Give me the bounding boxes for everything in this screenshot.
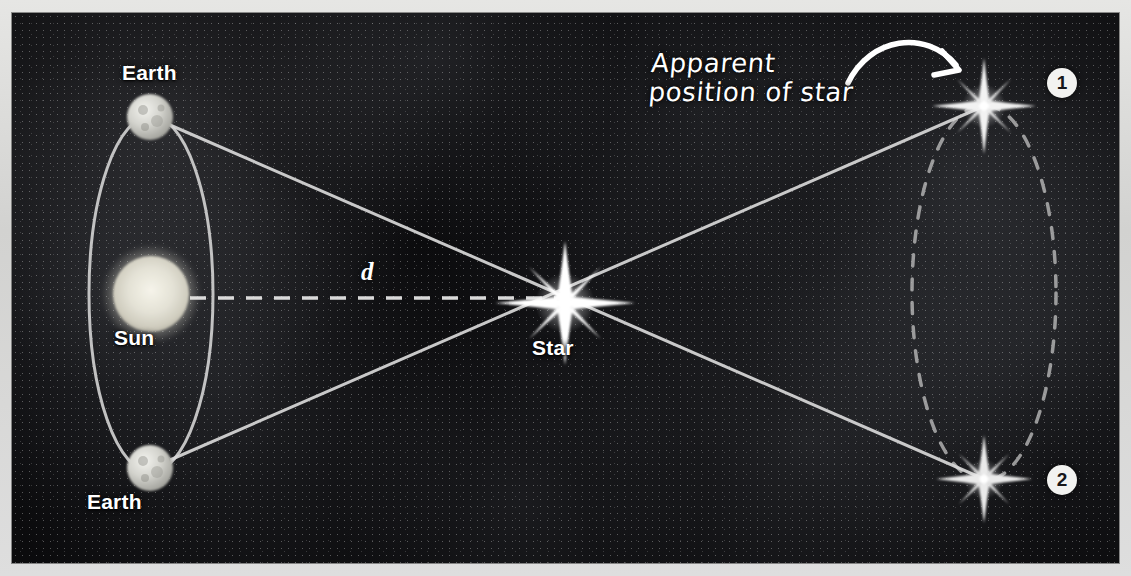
figure-page: Earth Earth Sun Star d Apparent position… [0,0,1131,576]
parallax-figure: Earth Earth Sun Star d Apparent position… [12,13,1119,563]
annotation-line-1: Apparent [650,49,903,78]
badge-position-1: 1 [1047,68,1077,98]
diagram-vectors [12,13,1119,563]
annotation-apparent-position: Apparent position of star [647,49,902,107]
star-apparent-2-object [936,435,1032,523]
earth-bottom-object [127,445,173,491]
apparent-position-ellipse [912,105,1056,481]
earth-top-object [127,94,173,140]
label-star: Star [532,336,574,360]
annotation-line-2: position of star [647,78,900,107]
label-earth-top: Earth [122,61,177,85]
badge-position-2: 2 [1047,465,1077,495]
label-earth-bottom: Earth [87,490,142,514]
label-sun: Sun [114,326,154,350]
label-distance-d: d [361,258,374,286]
